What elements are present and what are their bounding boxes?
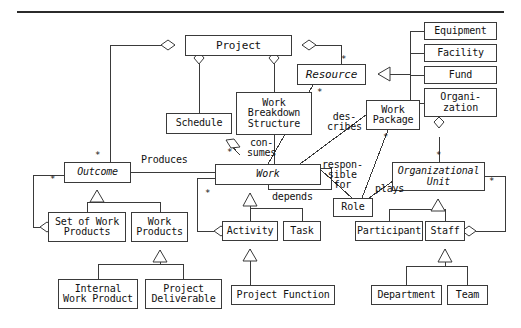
class-box-internal-work-product[interactable]: Internal Work Product — [58, 279, 138, 309]
aggregation-diamond — [302, 40, 316, 50]
multiplicity-marker: * — [227, 148, 232, 157]
class-box-task[interactable]: Task — [283, 221, 321, 241]
uml-class-diagram: Project Resource Equipment Facility Fund… — [0, 0, 521, 328]
class-box-organization[interactable]: Organi- zation — [424, 88, 497, 117]
class-box-role[interactable]: Role — [333, 198, 373, 217]
generalization-arrow — [378, 67, 390, 81]
generalization-arrow — [153, 250, 167, 262]
edge-label-describes: des- cribes — [327, 112, 362, 132]
class-box-project-deliverable[interactable]: Project Deliverable — [145, 279, 222, 309]
multiplicity-marker: * — [95, 151, 100, 160]
edge-label-depends: depends — [272, 192, 313, 202]
header-rule — [17, 11, 504, 13]
generalization-arrow — [243, 193, 257, 206]
edge-label-plays: plays — [375, 184, 404, 194]
class-box-organizational-unit[interactable]: Organizational Unit — [392, 162, 485, 191]
class-box-work-package[interactable]: Work Package — [366, 100, 420, 130]
multiplicity-marker: * — [383, 133, 388, 142]
generalization-arrow — [243, 249, 257, 261]
class-box-staff[interactable]: Staff — [425, 221, 465, 241]
edge-label-consumes: con- sumes — [247, 138, 276, 158]
class-box-fund[interactable]: Fund — [424, 66, 497, 84]
multiplicity-marker: * — [341, 55, 346, 64]
class-box-work-products[interactable]: Work Products — [131, 212, 188, 242]
class-box-work-breakdown-structure[interactable]: Work Breakdown Structure — [236, 92, 312, 135]
class-box-activity[interactable]: Activity — [222, 221, 278, 241]
generalization-arrow — [438, 249, 452, 262]
generalization-arrow — [90, 190, 104, 202]
class-box-participant[interactable]: Participant — [355, 221, 423, 241]
class-box-project[interactable]: Project — [185, 35, 292, 56]
edge-label-produces: Produces — [141, 155, 188, 165]
class-box-project-function[interactable]: Project Function — [231, 285, 335, 305]
aggregation-diamond — [161, 40, 175, 50]
class-box-facility[interactable]: Facility — [424, 44, 497, 62]
multiplicity-marker: * — [205, 189, 210, 198]
class-box-set-of-work-products[interactable]: Set of Work Products — [48, 212, 126, 242]
class-box-schedule[interactable]: Schedule — [166, 113, 232, 134]
multiplicity-marker: * — [50, 175, 55, 184]
class-box-team[interactable]: Team — [447, 285, 488, 305]
aggregation-diamond — [434, 117, 444, 128]
multiplicity-marker: * — [436, 151, 441, 160]
class-box-equipment[interactable]: Equipment — [424, 22, 497, 40]
class-box-work[interactable]: Work — [215, 164, 321, 185]
generalization-arrow — [431, 199, 445, 211]
class-box-resource[interactable]: Resource — [297, 64, 366, 85]
multiplicity-marker: * — [489, 177, 494, 186]
class-box-department[interactable]: Department — [371, 285, 442, 305]
edge-label-responsible-for: respon- sible for — [322, 160, 363, 191]
multiplicity-marker: * — [317, 88, 322, 97]
class-box-outcome[interactable]: Outcome — [64, 162, 131, 183]
